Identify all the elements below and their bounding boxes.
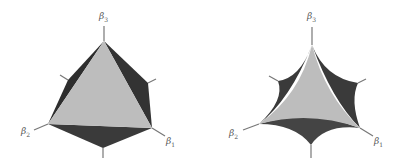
left-polytope xyxy=(34,26,165,158)
label-beta3-right: β3 xyxy=(307,11,316,23)
label-beta1-left: β1 xyxy=(166,136,175,148)
label-beta2-left: β2 xyxy=(21,126,30,138)
figure-canvas xyxy=(0,0,400,164)
label-beta2-right: β2 xyxy=(229,128,238,140)
label-beta1-right: β1 xyxy=(374,136,383,148)
right-curved-polytope xyxy=(243,27,373,158)
label-beta3-left: β3 xyxy=(99,11,108,23)
